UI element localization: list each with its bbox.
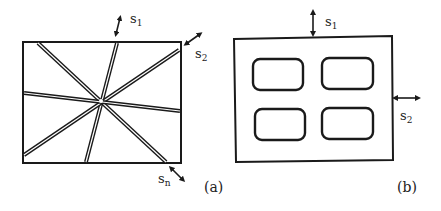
label-base: s [130,11,137,26]
panel-a-strips [24,43,180,162]
label-subscript: n [165,178,171,188]
label-a-sn: sn [158,172,170,188]
arrow-s1-icon [116,18,120,34]
label-base: s [158,171,165,186]
label-subscript: 2 [202,53,208,63]
hole-top-left [253,59,303,90]
strip-center [99,99,103,103]
hole-bottom-left [255,109,305,140]
hole-top-right [322,58,373,89]
label-base: s [195,46,202,61]
caption-b: (b) [397,180,417,194]
hole-bottom-right [322,108,373,139]
label-b-s1: s1 [325,15,337,31]
label-base: s [325,14,332,29]
arrow-sn-icon [171,168,183,180]
label-subscript: 1 [332,21,338,31]
label-a-s2: s2 [195,47,207,63]
arrow-s2-icon [186,34,200,44]
label-subscript: 2 [407,115,413,125]
label-b-s2: s2 [400,109,412,125]
panel-a [23,18,200,180]
label-subscript: 1 [137,18,143,28]
panel-b [234,12,418,162]
caption-a: (a) [204,180,223,194]
label-base: s [400,108,407,123]
label-a-s1: s1 [130,12,142,28]
panel-b-frame [234,36,393,162]
